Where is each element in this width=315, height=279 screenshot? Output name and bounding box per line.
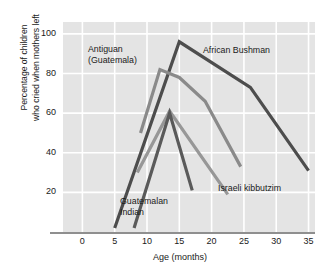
x-tick-label: 25 (234, 236, 254, 246)
x-axis-line (50, 232, 315, 234)
series-label-israeli-kibbutzim-line1: Israeli kibbutzim (218, 183, 281, 194)
x-tick-label: 0 (72, 236, 92, 246)
series-label-antiguan-line2: (Guatemala) (88, 55, 137, 66)
series-label-african-bushman-line1: African Bushman (203, 45, 270, 56)
chart-figure: Percentage of children who cried when mo… (0, 0, 315, 279)
x-axis-title: Age (months) (100, 252, 260, 262)
x-tick-label: 10 (137, 236, 157, 246)
x-tick-label: 30 (266, 236, 286, 246)
series-label-guatemalan-indian-line1: Guatemalan (120, 196, 168, 207)
y-tick-label: 20 (26, 186, 56, 196)
x-tick-label: 5 (105, 236, 125, 246)
series-label-african-bushman: African Bushman (203, 45, 270, 56)
series-label-antiguan: Antiguan (Guatemala) (88, 44, 137, 65)
series-label-guatemalan-indian-line2: Indian (120, 207, 168, 218)
series-label-guatemalan-indian: Guatemalan Indian (120, 196, 168, 217)
series-label-antiguan-line1: Antiguan (88, 44, 137, 55)
series-label-israeli-kibbutzim: Israeli kibbutzim (218, 183, 281, 194)
y-tick-label: 100 (26, 28, 56, 38)
y-tick-label: 40 (26, 147, 56, 157)
x-tick-label: 20 (202, 236, 222, 246)
y-tick-label: 60 (26, 107, 56, 117)
x-tick-label: 35 (299, 236, 315, 246)
y-tick-label: 80 (26, 68, 56, 78)
x-tick-label: 15 (169, 236, 189, 246)
